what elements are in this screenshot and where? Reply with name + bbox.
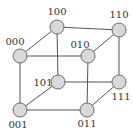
node-label-111: 111 — [111, 91, 130, 102]
node-label-010: 010 — [70, 39, 89, 50]
node-label-101: 101 — [33, 77, 52, 88]
node-label-011: 011 — [77, 118, 96, 129]
node-label-110: 110 — [109, 9, 128, 20]
node-000 — [13, 49, 27, 63]
edge-100-110 — [57, 27, 119, 30]
node-label-001: 001 — [8, 119, 27, 130]
node-111 — [112, 75, 126, 89]
node-label-000: 000 — [5, 36, 24, 47]
hypercube-diagram: 100110000010101111001011 — [0, 0, 133, 138]
node-001 — [13, 103, 27, 117]
node-label-100: 100 — [47, 6, 66, 17]
node-011 — [80, 103, 94, 117]
node-101 — [51, 75, 65, 89]
edge-100-101 — [57, 27, 58, 82]
cube-graph: 100110000010101111001011 — [0, 0, 133, 138]
node-110 — [112, 23, 126, 37]
node-100 — [50, 20, 64, 34]
node-010 — [81, 49, 95, 63]
edge-010-011 — [87, 56, 88, 110]
